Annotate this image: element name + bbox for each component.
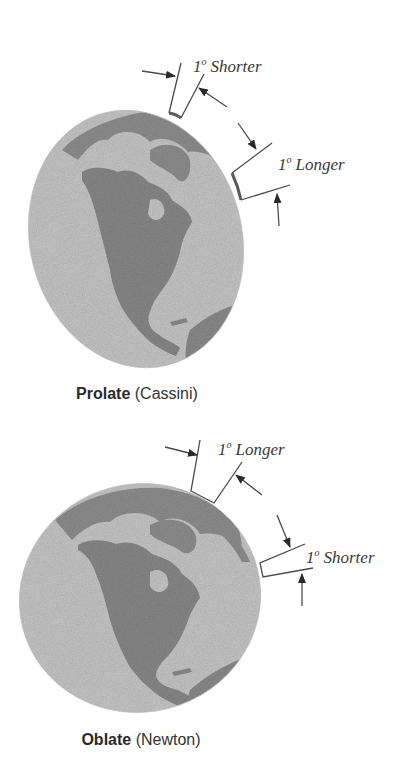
earth-shape-diagram: 1oShorter 1oLonger 1oLonger 1 [0,0,400,767]
oblate-caption: Oblate (Newton) [0,731,341,749]
prolate-right-lower-tick [241,185,290,200]
oblate-top-bracket [191,440,242,503]
oblate-label-shorter: 1oShorter [306,547,375,567]
prolate-top-right-arrow [199,88,227,107]
prolate-top-left-arrow [142,71,175,76]
oblate-caption-proponent: (Newton) [136,731,201,748]
prolate-arc-top [169,113,181,118]
prolate-label-longer: 1oLonger [278,154,345,174]
prolate-caption: Prolate (Cassini) [0,385,337,403]
prolate-caption-proponent: (Cassini) [135,385,198,402]
prolate-globe [2,87,271,391]
prolate-right-upper-tick [232,143,272,173]
prolate-right-up-arrow [277,194,279,226]
prolate-caption-shape: Prolate [76,385,130,402]
prolate-right-down-arrow [238,123,256,149]
oblate-top-right-arrow [236,475,262,495]
oblate-right-down-arrow [277,515,290,547]
oblate-top-left-arrow [165,447,197,455]
oblate-caption-shape: Oblate [81,731,131,748]
prolate-label-shorter: 1oShorter [193,56,262,76]
prolate-top-left-tick [169,63,181,113]
oblate-globe [0,458,285,738]
oblate-label-longer: 1oLonger [218,439,285,459]
prolate-top-right-tick [181,74,204,118]
